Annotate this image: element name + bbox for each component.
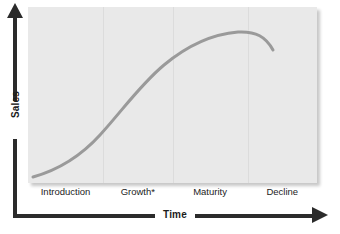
y-axis-label: Sales	[10, 78, 21, 132]
x-axis-label: Time	[155, 209, 195, 220]
stage-label-decline: Decline	[248, 186, 317, 197]
sales-curve	[28, 7, 317, 183]
x-axis-right-arrow-icon	[312, 207, 328, 223]
stage-label-row: Introduction Growth* Maturity Decline	[28, 186, 317, 202]
x-axis-line-left	[13, 214, 159, 218]
plot-inner	[28, 7, 317, 183]
stage-label-maturity: Maturity	[173, 186, 248, 197]
plot-area	[28, 7, 317, 183]
y-axis-line-lower	[13, 139, 17, 216]
y-axis-up-arrow-icon	[7, 3, 23, 18]
product-life-cycle-chart: Sales Time Introduction Growth* Maturity…	[0, 0, 340, 234]
x-axis-line-right	[188, 214, 313, 218]
stage-label-growth: Growth*	[103, 186, 172, 197]
stage-label-introduction: Introduction	[28, 186, 103, 197]
